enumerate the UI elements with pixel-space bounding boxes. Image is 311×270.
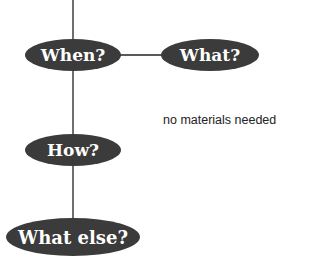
node-what: What? bbox=[161, 39, 259, 71]
node-when: When? bbox=[25, 39, 121, 71]
node-what-else-label: What else? bbox=[17, 227, 128, 248]
node-how: How? bbox=[25, 134, 121, 166]
node-what-label: What? bbox=[179, 45, 240, 65]
node-how-label: How? bbox=[47, 140, 99, 160]
node-when-label: When? bbox=[40, 45, 106, 65]
node-what-else: What else? bbox=[6, 218, 140, 256]
annotation-note: no materials needed bbox=[163, 113, 276, 127]
flow-diagram: When? What? How? What else? bbox=[0, 0, 311, 270]
